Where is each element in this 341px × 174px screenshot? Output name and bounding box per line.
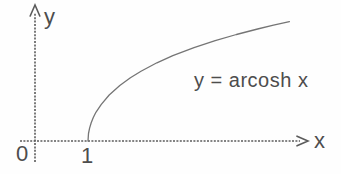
y-axis-label: y bbox=[44, 5, 55, 29]
x-axis-label: x bbox=[314, 129, 325, 153]
x-axis-arrowhead-icon bbox=[297, 136, 308, 146]
x-tick-label-1: 1 bbox=[81, 144, 93, 168]
origin-label: 0 bbox=[16, 142, 28, 166]
curve-equation-label: y = arcosh x bbox=[194, 69, 308, 91]
arcosh-graph-figure: y x 0 1 y = arcosh x bbox=[0, 0, 341, 174]
